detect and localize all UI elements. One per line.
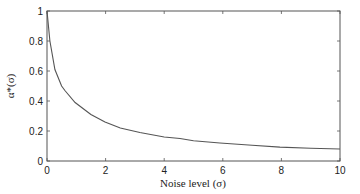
x-axis-label: Noise level (σ) [160, 177, 226, 190]
x-tick-label: 2 [103, 165, 109, 176]
y-tick-label: 0.2 [29, 126, 43, 137]
y-tick-label: 0.6 [29, 66, 43, 77]
x-tick-label: 10 [334, 165, 346, 176]
y-tick-label: 1 [37, 6, 43, 17]
y-tick-label: 0.8 [29, 36, 43, 47]
x-tick-label: 4 [161, 165, 167, 176]
y-tick-label: 0 [37, 156, 43, 167]
y-tick-label: 0.4 [29, 96, 43, 107]
plot-area [47, 11, 340, 161]
y-axis-label: α*(σ) [4, 73, 17, 98]
x-tick-label: 8 [279, 165, 285, 176]
x-tick-label: 6 [220, 165, 226, 176]
line-chart: 00.20.40.60.81 0246810 Noise level (σ) α… [0, 0, 360, 194]
x-tick-label: 0 [44, 165, 50, 176]
